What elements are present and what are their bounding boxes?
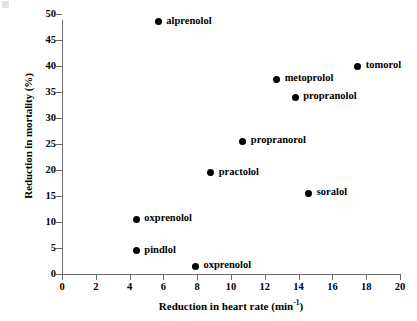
y-tick-label: 5 xyxy=(34,242,56,253)
data-point-label: soralol xyxy=(317,186,347,197)
data-point-label: pindlol xyxy=(144,244,176,255)
y-tick-label-wrap: 50 xyxy=(20,14,56,15)
y-tick-label: 30 xyxy=(34,112,56,123)
x-axis-title-text: Reduction in heart rate (min xyxy=(159,300,293,312)
data-point-marker xyxy=(207,169,214,176)
x-tick-mark xyxy=(332,274,333,280)
y-tick-mark xyxy=(56,248,62,249)
x-tick-label: 20 xyxy=(385,281,415,292)
y-tick-label-wrap: 15 xyxy=(20,196,56,197)
y-tick-mark xyxy=(56,14,62,15)
data-point-marker xyxy=(305,190,312,197)
data-point-marker xyxy=(292,94,299,101)
x-tick-label: 8 xyxy=(182,281,212,292)
y-tick-label-wrap: 30 xyxy=(20,118,56,119)
scatter-chart-figure: Reduction in mortality (%) Reduction in … xyxy=(0,0,417,321)
data-point-label: alprenolol xyxy=(166,15,211,26)
data-point-marker xyxy=(354,63,361,70)
y-tick-label-wrap: 40 xyxy=(20,66,56,67)
y-tick-mark xyxy=(56,196,62,197)
x-tick-mark xyxy=(130,274,131,280)
y-tick-label: 45 xyxy=(34,34,56,45)
y-tick-label: 35 xyxy=(34,86,56,97)
data-point-label: oxprenolol xyxy=(144,212,192,223)
y-tick-label: 15 xyxy=(34,190,56,201)
x-tick-label: 4 xyxy=(115,281,145,292)
y-tick-label-wrap: 45 xyxy=(20,40,56,41)
x-tick-mark xyxy=(231,274,232,280)
x-tick-mark xyxy=(265,274,266,280)
x-tick-label: 0 xyxy=(47,281,77,292)
data-point-marker xyxy=(239,138,246,145)
x-tick-mark xyxy=(197,274,198,280)
x-tick-label: 6 xyxy=(148,281,178,292)
x-tick-label: 2 xyxy=(81,281,111,292)
y-tick-label-wrap: 25 xyxy=(20,144,56,145)
y-axis-title: Reduction in mortality (%) xyxy=(22,16,34,256)
x-tick-label: 10 xyxy=(216,281,246,292)
data-point-label: propranolol xyxy=(303,90,356,101)
x-axis-title-tail: ) xyxy=(300,300,304,312)
y-tick-mark xyxy=(56,170,62,171)
x-tick-label: 14 xyxy=(284,281,314,292)
y-tick-label: 25 xyxy=(34,138,56,149)
x-tick-mark xyxy=(400,274,401,280)
y-tick-label: 10 xyxy=(34,216,56,227)
data-point-label: tomorol xyxy=(366,59,401,70)
x-tick-mark xyxy=(299,274,300,280)
data-point-label: propranorol xyxy=(251,134,306,145)
data-point-label: metoprolol xyxy=(285,72,334,83)
data-point-marker xyxy=(133,247,140,254)
y-tick-label-wrap: 10 xyxy=(20,222,56,223)
x-tick-label: 12 xyxy=(250,281,280,292)
x-tick-mark xyxy=(163,274,164,280)
data-point-label: oxprenolol xyxy=(204,259,252,270)
data-point-marker xyxy=(192,263,199,270)
y-tick-label: 0 xyxy=(34,268,56,279)
x-tick-mark xyxy=(366,274,367,280)
y-tick-mark xyxy=(56,118,62,119)
x-tick-mark xyxy=(62,274,63,280)
y-tick-label-wrap: 5 xyxy=(20,248,56,249)
data-point-marker xyxy=(155,18,162,25)
y-tick-label-wrap: 0 xyxy=(20,274,56,275)
y-tick-label: 20 xyxy=(34,164,56,175)
y-tick-mark xyxy=(56,66,62,67)
y-tick-mark xyxy=(56,40,62,41)
y-tick-mark xyxy=(56,92,62,93)
data-point-label: practolol xyxy=(219,166,259,177)
y-tick-label-wrap: 20 xyxy=(20,170,56,171)
y-tick-label-wrap: 35 xyxy=(20,92,56,93)
x-axis-title: Reduction in heart rate (min-1) xyxy=(62,300,400,312)
y-axis-line xyxy=(62,20,63,275)
data-point-marker xyxy=(133,216,140,223)
y-tick-mark xyxy=(56,222,62,223)
y-tick-label: 50 xyxy=(34,8,56,19)
y-tick-mark xyxy=(56,144,62,145)
x-tick-mark xyxy=(96,274,97,280)
scan-artifact xyxy=(2,1,9,8)
data-point-marker xyxy=(273,76,280,83)
x-tick-label: 16 xyxy=(317,281,347,292)
y-tick-label: 40 xyxy=(34,60,56,71)
x-tick-label: 18 xyxy=(351,281,381,292)
